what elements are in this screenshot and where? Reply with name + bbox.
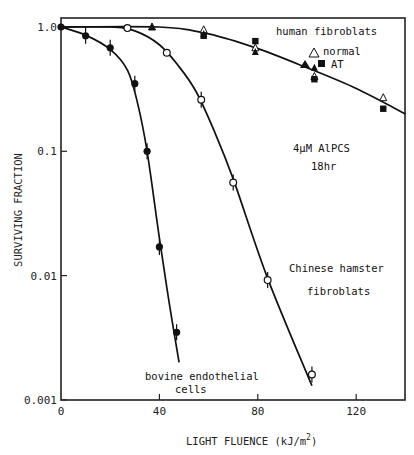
fit-curve (61, 27, 312, 386)
data-point-human-at-square (311, 76, 317, 82)
hamster-label-line2: fibroblats (307, 285, 370, 297)
data-point-hamster (198, 96, 205, 103)
at-label: AT (331, 58, 344, 70)
data-point-hamster (163, 49, 170, 56)
data-point-human-normal (380, 94, 387, 101)
data-point-hamster (309, 371, 316, 378)
legend-human-fibroblasts: human fibroblats normal , AT (276, 25, 377, 70)
x-tick-label: 120 (346, 405, 366, 418)
data-point-human-at-square (380, 106, 386, 112)
x-tick-label: 40 (153, 405, 166, 418)
x-tick-label: 80 (251, 405, 264, 418)
data-point-human-at-square (200, 33, 206, 39)
plot-frame (61, 18, 405, 400)
y-tick-label: 0.1 (37, 145, 57, 158)
filled-triangle-icon (300, 60, 310, 68)
survival-chart: 1.00.10.010.001 04080120 SURVIVING FRACT… (0, 0, 414, 455)
fit-curve (61, 27, 179, 362)
x-tick-label: 0 (58, 405, 65, 418)
data-point-hamster (230, 179, 237, 186)
bovine-label-line1: bovine endothelial (145, 370, 259, 382)
open-triangle-icon (309, 48, 319, 57)
data-point-bovine (107, 44, 114, 51)
y-tick-label: 1.0 (37, 21, 57, 34)
hamster-label-line1: Chinese hamster (289, 262, 384, 274)
y-tick-label: 0.001 (24, 394, 57, 407)
x-axis-title: LIGHT FLUENCE (kJ/m2) (186, 433, 317, 447)
y-tick-label: 0.01 (31, 270, 58, 283)
data-markers (57, 23, 386, 383)
data-point-human-at-square (252, 38, 258, 44)
normal-label: normal (323, 45, 361, 57)
human-fibroblasts-label: human fibroblats (276, 25, 377, 37)
data-point-bovine (57, 23, 64, 30)
data-point-bovine (131, 80, 138, 87)
bovine-label-line2: cells (175, 383, 207, 395)
fit-curves (61, 26, 405, 385)
comma-separator: , (311, 58, 317, 70)
data-point-hamster (264, 277, 271, 284)
filled-square-icon (318, 60, 325, 67)
data-point-bovine (173, 329, 180, 336)
treatment-label-line2: 18hr (311, 160, 336, 172)
data-point-bovine (82, 32, 89, 39)
x-axis: 04080120 (58, 394, 366, 418)
fit-curve (61, 26, 405, 113)
data-point-bovine (156, 243, 163, 250)
data-point-hamster (124, 25, 131, 32)
y-axis-title: SURVIVING FRACTION (12, 153, 24, 267)
data-point-bovine (144, 148, 151, 155)
treatment-label-line1: 4μM AlPCS (293, 142, 350, 154)
